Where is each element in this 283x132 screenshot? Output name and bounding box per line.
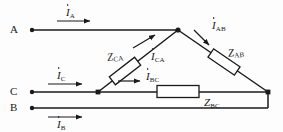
node-right-corner (266, 90, 271, 95)
phase-line-b (30, 106, 268, 110)
current-label-ia: IA (66, 7, 75, 20)
impedance-label-zca: ZCA (106, 50, 124, 65)
impedance-label-zab: ZAB (227, 46, 244, 60)
impedance-box-zbc (157, 86, 199, 98)
impedance-subscript-zca: CA (113, 54, 124, 63)
current-label-ica: ICA (151, 51, 165, 64)
current-subscript-iab: AB (216, 25, 226, 33)
node-apex (175, 27, 180, 32)
circuit-diagram: A C B IA IC IB IBC ICA IAB ZCA ZAB ZBC (0, 0, 283, 132)
circuit-schematic-canvas (0, 0, 283, 132)
phasor-dot-iab: I (212, 20, 216, 31)
terminal-label-a: A (10, 24, 18, 35)
phasor-dot-ica: I (151, 51, 155, 62)
terminal-label-c: C (10, 86, 17, 97)
current-subscript-ib: B (61, 124, 66, 132)
phase-line-a (30, 28, 178, 32)
node-c-branch (96, 90, 101, 95)
current-subscript-ic: C (61, 75, 66, 83)
current-label-ibc: IBC (146, 71, 159, 84)
current-subscript-ibc: BC (150, 76, 160, 84)
phasor-dot-ia: I (66, 7, 70, 18)
impedance-subscript-zab: AB (234, 51, 245, 60)
current-arrow-ica (133, 35, 155, 48)
terminal-label-b: B (10, 102, 17, 113)
phasor-dot-ib: I (57, 119, 61, 130)
phase-line-c (30, 90, 268, 94)
phasor-dot-ic: I (57, 70, 61, 81)
current-subscript-ia: A (70, 12, 75, 20)
current-label-ib: IB (57, 119, 66, 132)
impedance-subscript-zbc: BC (210, 102, 220, 110)
current-subscript-ica: CA (155, 56, 165, 64)
current-label-iab: IAB (212, 20, 226, 33)
current-label-ic: IC (57, 70, 66, 83)
phasor-dot-ibc: I (146, 71, 150, 82)
impedance-label-zbc: ZBC (204, 97, 220, 110)
